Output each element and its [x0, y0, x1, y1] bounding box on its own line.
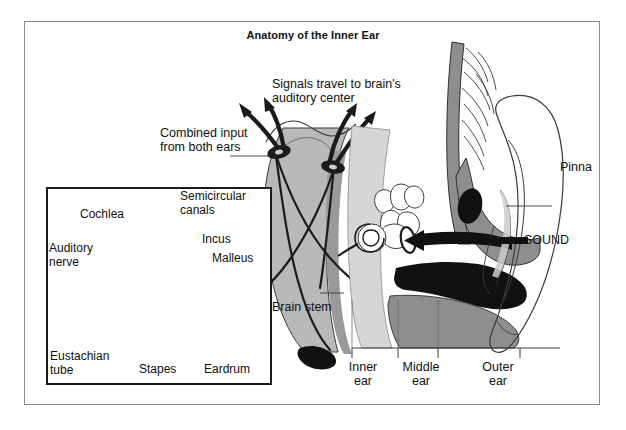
label-brain-stem: Brain stem [272, 300, 332, 314]
hair-strokes [462, 48, 496, 170]
label-eustachian-tube: Eustachian tube [50, 350, 109, 377]
label-auditory-nerve: Auditory nerve [49, 242, 93, 269]
label-signals-travel: Signals travel to brain's auditory cente… [272, 77, 401, 105]
label-incus: Incus [202, 233, 231, 247]
anatomy-figure: Anatomy of the Inner Ear [0, 0, 626, 430]
sound-arrow-shaft [418, 237, 528, 244]
label-semicircular-canals: Semicircular canals [180, 190, 246, 217]
label-combined-input: Combined input from both ears [160, 126, 248, 154]
label-middle-ear: Middle ear [394, 360, 448, 388]
signal-arrow-shaft-2 [268, 104, 284, 148]
label-inner-ear: Inner ear [340, 360, 386, 388]
label-stapes: Stapes [139, 363, 176, 377]
label-outer-ear: Outer ear [472, 360, 524, 388]
label-eardrum: Eardrum [204, 363, 250, 377]
label-malleus: Malleus [212, 252, 253, 266]
label-cochlea: Cochlea [80, 208, 124, 222]
label-sound: SOUND [524, 233, 569, 247]
pinna-outline [490, 95, 563, 352]
label-pinna: Pinna [560, 160, 592, 174]
